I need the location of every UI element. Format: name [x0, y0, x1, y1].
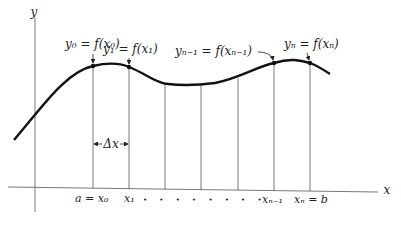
label-yn-1: yₙ₋₁ = f(xₙ₋₁) [174, 44, 252, 58]
tick-dots: • • • • • • • • [143, 196, 267, 204]
function-curve [14, 60, 330, 140]
delta-x-label: Δx [102, 137, 119, 151]
arrow-yn [307, 53, 309, 60]
arrow-yn-1 [258, 52, 273, 60]
point-yn-1 [272, 61, 276, 65]
label-y1: y₁ = f(x₁) [102, 42, 158, 56]
tick-xn-1: xₙ₋₁ [262, 193, 283, 206]
label-yn: yₙ = f(xₙ) [283, 37, 339, 51]
x-axis-label: x [384, 183, 391, 197]
tick-x1: x₁ [124, 192, 135, 205]
point-yn [308, 61, 312, 65]
point-y0 [91, 64, 95, 68]
riemann-partition-diagram: y x y₀ = f(x₀) y₁ = f(x₁) yₙ₋₁ = f(xₙ₋₁)… [0, 0, 401, 225]
y-axis-label: y [30, 5, 38, 19]
tick-b: xₙ = b [294, 193, 328, 206]
x-axis [8, 187, 378, 192]
tick-a: a = x₀ [75, 192, 109, 205]
partition-lines [93, 63, 310, 191]
point-y1 [127, 65, 131, 69]
